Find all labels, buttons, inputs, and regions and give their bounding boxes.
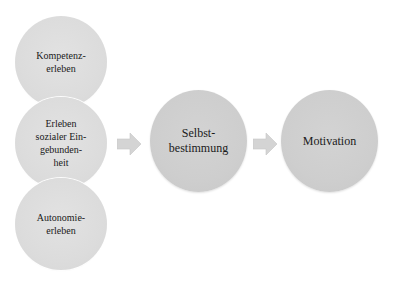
node-motivation: Motivation [281,90,378,192]
arrow-right-icon [253,133,277,155]
node-label: Motivation [297,134,362,149]
node-soziale-eingebundenheit: Erleben sozialer Ein- gebunden- heit [15,97,107,189]
node-autonomieerleben: Autonomie- erleben [15,178,107,270]
node-kompetenzerleben: Kompetenz- erleben [15,16,107,108]
node-label: Erleben sozialer Ein- gebunden- heit [30,117,93,169]
node-label: Autonomie- erleben [31,211,91,237]
node-selbstbestimmung: Selbst- bestimmung [150,90,247,192]
arrow-right-icon [117,133,141,155]
node-label: Kompetenz- erleben [30,49,91,75]
node-label: Selbst- bestimmung [163,126,234,156]
